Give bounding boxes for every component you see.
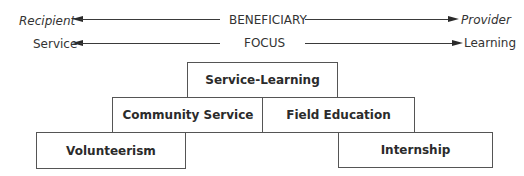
learning-label: Learning	[464, 36, 516, 50]
right-arrowhead-icon	[448, 16, 459, 22]
recipient-label: Recipient	[19, 14, 75, 28]
volunteerism-box: Volunteerism	[36, 132, 186, 169]
right-arrow-line	[305, 19, 450, 21]
service-learning-box: Service-Learning	[187, 62, 338, 98]
right-arrowhead-icon	[452, 40, 463, 46]
focus-label: FOCUS	[244, 36, 285, 50]
community-service-box: Community Service	[112, 97, 264, 133]
left-arrow-line	[80, 19, 220, 21]
left-arrow-line	[80, 43, 220, 45]
field-education-box: Field Education	[262, 97, 415, 133]
beneficiary-label: BENEFICIARY	[229, 13, 307, 27]
service-label: Service	[33, 37, 77, 51]
internship-box: Internship	[338, 132, 493, 168]
provider-label: Provider	[461, 13, 511, 27]
right-arrow-line	[305, 43, 455, 45]
